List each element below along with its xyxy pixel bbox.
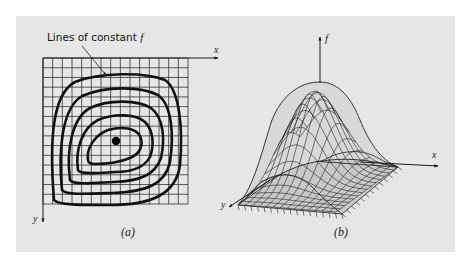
- y-axis-label: y: [32, 213, 38, 224]
- x-axis-label: x: [213, 44, 219, 55]
- surface-plot: f x y (b): [220, 32, 438, 239]
- callout-label: Lines of constant f: [47, 31, 145, 43]
- optimum-point: [112, 137, 120, 145]
- f-axis-label: f: [325, 32, 330, 44]
- callout-pointer: [82, 46, 106, 75]
- caption-a: (a): [121, 225, 135, 239]
- x-axis-3d-label: x: [431, 149, 437, 160]
- figure-canvas: x y Lines of constant f (a) f x y (b): [0, 0, 469, 269]
- caption-b: (b): [334, 225, 348, 239]
- contour-plot: x y Lines of constant f (a): [32, 31, 219, 239]
- y-axis-3d-label: y: [220, 199, 226, 210]
